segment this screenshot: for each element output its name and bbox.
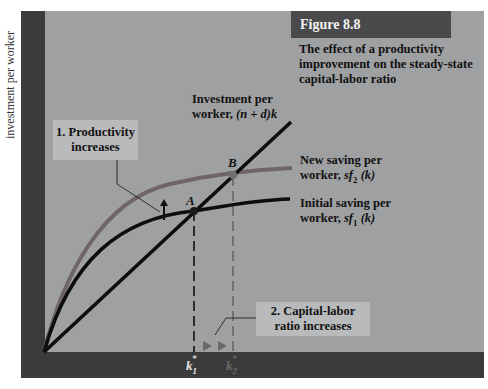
capital-labor-annotation: 2. Capital-labor ratio increases bbox=[256, 302, 370, 336]
new-saving-curve bbox=[44, 168, 292, 352]
point-b-label: B bbox=[228, 155, 237, 171]
figure-title: Figure 8.8 bbox=[291, 11, 451, 38]
productivity-leader-line bbox=[117, 159, 160, 212]
point-a-label: A bbox=[186, 193, 195, 209]
capital-increase-arrow-icon-1 bbox=[203, 341, 212, 351]
productivity-shift-arrowhead-icon bbox=[160, 199, 168, 206]
figure-description: The effect of a productivity improvement… bbox=[299, 42, 479, 87]
x-tick-k2-star: k2* bbox=[226, 357, 242, 376]
capital-increase-arrow-icon-2 bbox=[218, 341, 227, 351]
point-b-marker bbox=[229, 171, 237, 179]
initial-saving-label: Initial saving per worker, sf1 (k) bbox=[300, 196, 391, 231]
productivity-annotation: 1. Productivity increases bbox=[53, 120, 138, 160]
new-saving-label: New saving per worker, sf2 (k) bbox=[300, 153, 382, 188]
x-tick-k1-star: k1* bbox=[186, 357, 202, 376]
investment-label: Investment per worker, (n + d)k bbox=[192, 92, 277, 122]
initial-saving-curve bbox=[44, 199, 290, 352]
capital-labor-leader-line bbox=[215, 318, 256, 335]
